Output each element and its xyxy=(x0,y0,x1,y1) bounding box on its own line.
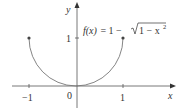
function-graph: y x −1 0 1 1 f(x) = 1 − 1 − x 2 xyxy=(0,0,184,109)
y-tick-label-1: 1 xyxy=(66,33,71,44)
endpoint-left xyxy=(27,36,30,39)
function-eq: = 1 − xyxy=(100,25,122,36)
y-axis-label: y xyxy=(65,4,71,15)
y-axis-arrow-icon xyxy=(75,2,80,8)
x-tick-label-0: 0 xyxy=(67,90,72,101)
sqrt-arg-text: 1 − x xyxy=(139,25,160,36)
x-axis-label: x xyxy=(167,90,173,101)
x-tick-label-neg1: −1 xyxy=(22,92,33,103)
function-curve xyxy=(29,38,123,86)
function-lhs: f(x) xyxy=(83,25,98,37)
exponent: 2 xyxy=(163,23,166,30)
endpoint-right xyxy=(121,36,124,39)
function-label: f(x) = 1 − xyxy=(83,25,122,37)
x-axis-arrow-icon xyxy=(170,84,176,89)
sqrt-arg: 1 − x xyxy=(139,25,160,36)
x-tick-label-1: 1 xyxy=(120,92,125,103)
